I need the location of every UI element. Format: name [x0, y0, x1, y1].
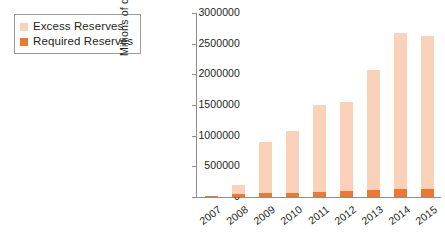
bar-segment-excess-reserves — [421, 36, 434, 197]
legend-swatch-icon — [20, 38, 28, 46]
x-axis-label-2013: 2013 — [354, 203, 385, 231]
bar-segment-required-reserves — [367, 190, 380, 197]
x-axis-label-2008: 2008 — [219, 203, 250, 231]
bar-segment-excess-reserves — [340, 102, 353, 197]
reserves-stacked-bar-chart: Excess Reserves Required Reserves Millio… — [0, 0, 445, 239]
y-axis-tick — [192, 44, 196, 45]
bar-segment-required-reserves — [313, 192, 326, 197]
y-axis-tick-label: 2000000 — [198, 67, 240, 79]
x-axis-label-2009: 2009 — [246, 203, 277, 231]
y-axis-tick — [192, 166, 196, 167]
bar-2009 — [259, 142, 272, 197]
plot-area: 0500000100000015000002000000250000030000… — [196, 13, 444, 197]
x-axis-label-2010: 2010 — [273, 203, 304, 231]
y-axis-tick — [192, 105, 196, 106]
bar-segment-required-reserves — [232, 194, 245, 197]
bar-2010 — [286, 131, 299, 197]
x-axis-label-2011: 2011 — [300, 203, 331, 231]
bar-2014 — [394, 33, 407, 197]
bar-2013 — [367, 70, 380, 197]
y-axis-tick-label: 3000000 — [198, 6, 240, 18]
y-axis-title: Millions of dollars — [118, 0, 130, 56]
bar-segment-excess-reserves — [313, 105, 326, 197]
x-axis-label-2007: 2007 — [192, 203, 223, 231]
bar-segment-excess-reserves — [367, 70, 380, 197]
x-axis-label-2015: 2015 — [408, 203, 439, 231]
bar-2012 — [340, 102, 353, 197]
y-axis-tick-label: 500000 — [204, 159, 240, 171]
bar-segment-required-reserves — [205, 196, 218, 197]
x-axis-label-2014: 2014 — [381, 203, 412, 231]
bar-segment-required-reserves — [394, 189, 407, 197]
bar-2008 — [232, 185, 245, 197]
bar-segment-excess-reserves — [394, 33, 407, 197]
y-axis-tick — [192, 136, 196, 137]
legend-label-excess-reserves: Excess Reserves — [33, 20, 123, 33]
bar-segment-excess-reserves — [286, 131, 299, 197]
legend-swatch-icon — [20, 23, 28, 31]
legend-item-required-reserves: Required Reserves — [20, 34, 133, 49]
y-axis-line — [196, 13, 197, 198]
bar-segment-required-reserves — [286, 193, 299, 197]
bar-segment-required-reserves — [421, 189, 434, 197]
y-axis-tick — [192, 197, 196, 198]
y-axis-tick-label: 1000000 — [198, 129, 240, 141]
x-axis-label-2012: 2012 — [327, 203, 358, 231]
bar-segment-required-reserves — [340, 191, 353, 197]
bar-2015 — [421, 36, 434, 197]
x-axis-line — [196, 197, 441, 198]
bar-segment-excess-reserves — [259, 142, 272, 197]
bar-2011 — [313, 105, 326, 197]
y-axis-tick-label: 1500000 — [198, 98, 240, 110]
bar-segment-required-reserves — [259, 193, 272, 197]
legend-item-excess-reserves: Excess Reserves — [20, 19, 133, 34]
y-axis-tick-label: 2500000 — [198, 37, 240, 49]
bar-2007 — [205, 196, 218, 197]
y-axis-tick — [192, 74, 196, 75]
y-axis-tick — [192, 13, 196, 14]
